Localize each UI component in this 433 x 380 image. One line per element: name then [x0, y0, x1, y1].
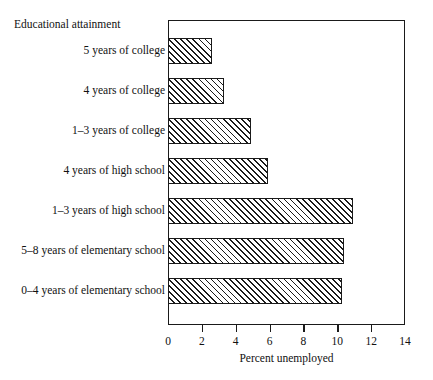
- bar: [168, 238, 344, 264]
- x-axis-tick-label: 6: [255, 334, 285, 348]
- x-axis-tick-label: 12: [356, 334, 386, 348]
- x-axis-tick-label: 14: [390, 334, 420, 348]
- bar: [168, 198, 353, 224]
- bar: [168, 278, 342, 304]
- category-label: 4 years of high school: [0, 164, 165, 177]
- x-axis-tick: [270, 325, 271, 332]
- category-label: 0–4 years of elementary school: [0, 284, 165, 297]
- bar: [168, 38, 212, 64]
- x-axis-tick-labels: 02468101214: [168, 334, 405, 350]
- bar: [168, 158, 268, 184]
- x-axis-tick: [337, 325, 338, 332]
- x-axis-tick-label: 4: [221, 334, 251, 348]
- x-axis-tick: [236, 325, 237, 332]
- category-label: 1–3 years of high school: [0, 204, 165, 217]
- bar: [168, 78, 224, 104]
- x-axis-tick: [202, 325, 203, 332]
- x-axis-tick: [303, 325, 304, 332]
- category-label: 5–8 years of elementary school: [0, 244, 165, 257]
- category-axis-labels: 5 years of college4 years of college1–3 …: [0, 20, 165, 325]
- x-axis-tick-label: 0: [153, 334, 183, 348]
- x-axis-tick-label: 2: [187, 334, 217, 348]
- bar: [168, 118, 251, 144]
- bar-chart-figure: Educational attainment 5 years of colleg…: [0, 0, 433, 380]
- category-label: 4 years of college: [0, 84, 165, 97]
- x-axis-tick-label: 10: [322, 334, 352, 348]
- category-label: 5 years of college: [0, 44, 165, 57]
- bars-layer: [168, 20, 405, 325]
- x-axis-tick-label: 8: [288, 334, 318, 348]
- x-axis-title: Percent unemployed: [168, 351, 405, 365]
- x-axis-tick: [371, 325, 372, 332]
- category-label: 1–3 years of college: [0, 124, 165, 137]
